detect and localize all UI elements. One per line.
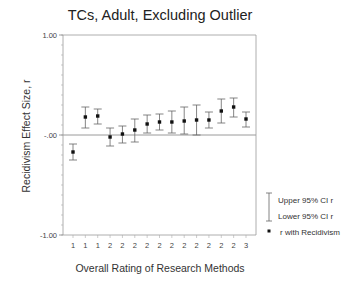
x-tick-label: 2 [157, 241, 161, 250]
x-axis: 111222222222223 [71, 235, 248, 250]
x-axis-label: Overall Rating of Research Methods [75, 262, 244, 274]
x-tick-label: 2 [207, 241, 211, 250]
legend: Upper 95% CI r Lower 95% CI r r with Rec… [266, 193, 340, 237]
data-marks [69, 98, 250, 160]
data-point [108, 135, 111, 138]
x-tick-label: 2 [145, 241, 149, 250]
x-tick-label: 2 [182, 241, 186, 250]
chart: TCs, Adult, Excluding Outlier 1.00-.00-1… [0, 0, 354, 285]
x-tick-label: 2 [219, 241, 223, 250]
legend-dot-icon [268, 230, 271, 233]
x-tick-label: 2 [108, 241, 112, 250]
plot-frame [63, 35, 256, 235]
y-tick-label: -.00 [44, 131, 57, 140]
data-point [158, 120, 161, 123]
legend-lower-label: Lower 95% CI r [278, 212, 333, 221]
data-point [84, 115, 87, 118]
x-tick-label: 2 [133, 241, 137, 250]
x-tick-label: 2 [120, 241, 124, 250]
data-point [207, 118, 210, 121]
data-point [145, 122, 148, 125]
data-point [121, 132, 124, 135]
x-tick-label: 1 [96, 241, 100, 250]
legend-upper-label: Upper 95% CI r [278, 196, 333, 205]
data-point [195, 118, 198, 121]
data-point [232, 105, 235, 108]
data-point [133, 128, 136, 131]
x-tick-label: 2 [170, 241, 174, 250]
legend-dot-label: r with Recidivism [280, 228, 340, 237]
chart-title: TCs, Adult, Excluding Outlier [68, 7, 253, 23]
x-tick-label: 2 [194, 241, 198, 250]
data-point [71, 150, 74, 153]
x-tick-label: 1 [83, 241, 87, 250]
data-point [244, 117, 247, 120]
y-axis: 1.00-.00-1.00 [40, 31, 63, 240]
y-tick-label: 1.00 [42, 31, 57, 40]
x-tick-label: 2 [232, 241, 236, 250]
data-point [220, 109, 223, 112]
data-point [183, 119, 186, 122]
y-tick-label: -1.00 [40, 231, 57, 240]
data-point [96, 114, 99, 117]
y-axis-label: Recidivism Effect Size, r [20, 79, 32, 193]
data-point [170, 120, 173, 123]
x-tick-label: 3 [244, 241, 248, 250]
x-tick-label: 1 [71, 241, 75, 250]
